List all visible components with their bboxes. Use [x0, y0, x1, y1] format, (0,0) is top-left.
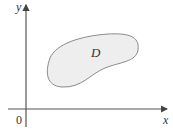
region-d-label: D	[91, 47, 100, 59]
diagram-canvas	[0, 0, 173, 136]
region-d-shape	[47, 34, 138, 87]
y-axis-label: y	[16, 1, 21, 13]
origin-label: 0	[16, 114, 22, 126]
region-diagram: y x 0 D	[0, 0, 173, 136]
x-axis-label: x	[163, 114, 168, 126]
